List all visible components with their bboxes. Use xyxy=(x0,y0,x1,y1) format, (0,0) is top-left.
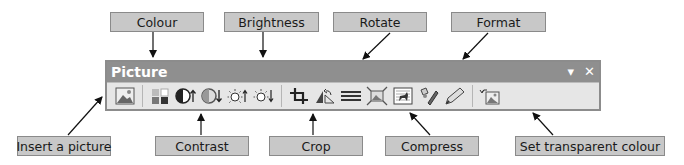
picture-icon xyxy=(115,87,135,105)
separator xyxy=(281,85,282,107)
text-wrapping-icon xyxy=(393,87,413,105)
line-style-button[interactable] xyxy=(339,85,363,107)
separator xyxy=(472,85,473,107)
insert-picture-button[interactable] xyxy=(113,85,137,107)
toolbar-titlebar[interactable]: Picture ▾ ✕ xyxy=(107,62,599,83)
toolbar-options-button[interactable]: ▾ xyxy=(568,63,575,81)
callout-compress: Compress xyxy=(385,136,479,156)
more-brightness-button[interactable] xyxy=(226,85,250,107)
reset-picture-icon xyxy=(479,86,501,106)
brightness-down-icon xyxy=(253,87,275,105)
compress-button[interactable] xyxy=(365,85,389,107)
line-style-icon xyxy=(340,87,362,105)
callout-set-transparent: Set transparent colour xyxy=(515,136,665,156)
format-picture-button[interactable] xyxy=(417,85,441,107)
toolbar-title: Picture xyxy=(111,64,167,80)
more-contrast-button[interactable] xyxy=(174,85,198,107)
format-picture-icon xyxy=(418,86,440,106)
compress-icon xyxy=(366,86,388,106)
set-transparent-color-button[interactable] xyxy=(443,85,467,107)
rotate-button[interactable] xyxy=(313,85,337,107)
brightness-up-icon xyxy=(227,87,249,105)
callout-format: Format xyxy=(451,12,546,32)
text-wrapping-button[interactable] xyxy=(391,85,415,107)
crop-button[interactable] xyxy=(287,85,311,107)
callout-rotate: Rotate xyxy=(333,12,427,32)
rotate-left-icon xyxy=(314,87,336,105)
less-brightness-button[interactable] xyxy=(252,85,276,107)
callout-colour: Colour xyxy=(110,12,204,32)
callout-crop: Crop xyxy=(269,136,363,156)
callout-insert-picture: Insert a picture xyxy=(17,136,111,156)
color-icon xyxy=(150,87,170,105)
reset-picture-button[interactable] xyxy=(478,85,502,107)
contrast-down-icon xyxy=(201,87,223,105)
crop-icon xyxy=(289,87,309,105)
toolbar-close-button[interactable]: ✕ xyxy=(584,63,595,81)
callout-contrast: Contrast xyxy=(155,136,249,156)
callout-brightness: Brightness xyxy=(224,12,319,32)
set-transparent-icon xyxy=(444,86,466,106)
color-button[interactable] xyxy=(148,85,172,107)
less-contrast-button[interactable] xyxy=(200,85,224,107)
separator xyxy=(142,85,143,107)
picture-toolbar: Picture ▾ ✕ xyxy=(105,60,601,111)
contrast-up-icon xyxy=(175,87,197,105)
